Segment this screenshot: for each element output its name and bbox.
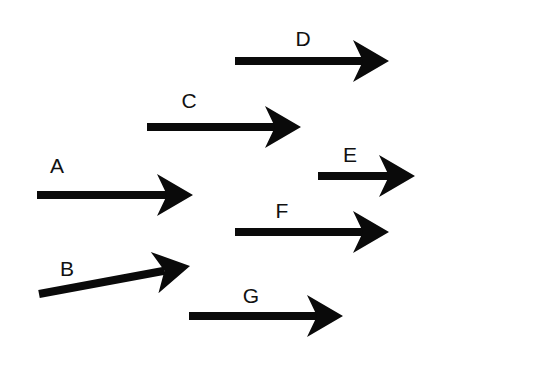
arrow-e-shaft	[318, 172, 389, 180]
arrow-d-icon	[235, 40, 389, 82]
arrow-e: E	[318, 143, 415, 197]
arrow-c-label: C	[181, 89, 196, 112]
arrow-c-icon	[147, 106, 301, 148]
arrow-g-label: G	[243, 284, 259, 307]
arrow-b-shaft	[38, 267, 165, 298]
arrow-b-icon	[35, 245, 194, 314]
arrow-d-label: D	[295, 27, 310, 50]
arrow-a-label: A	[50, 154, 64, 177]
arrow-b: B	[35, 245, 194, 314]
arrow-g-icon	[189, 295, 343, 337]
arrow-b-label: B	[60, 257, 74, 280]
arrow-f-label: F	[276, 199, 289, 222]
arrow-c: C	[147, 89, 301, 148]
vector-arrows-diagram: A B C D E F	[0, 0, 534, 369]
arrow-g: G	[189, 284, 343, 337]
arrow-e-icon	[318, 155, 415, 197]
arrow-g-shaft	[189, 312, 317, 320]
arrow-a: A	[37, 154, 193, 216]
arrow-a-shaft	[37, 191, 167, 199]
arrow-e-label: E	[343, 143, 357, 166]
arrow-f-shaft	[235, 228, 363, 236]
arrow-f-icon	[235, 211, 389, 253]
arrow-d: D	[235, 27, 389, 82]
arrow-c-shaft	[147, 123, 275, 131]
arrow-a-icon	[37, 174, 193, 216]
arrow-f: F	[235, 199, 389, 253]
arrow-d-shaft	[235, 57, 363, 65]
